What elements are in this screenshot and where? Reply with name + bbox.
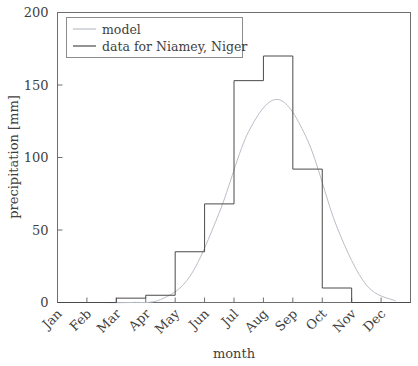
y-axis-tick-labels: 050100150200: [24, 5, 49, 310]
x-tick-label: Apr: [125, 305, 154, 334]
observed-data-series-bars: [58, 56, 411, 303]
y-axis-ticks: [58, 13, 63, 303]
y-tick-label: 0: [40, 295, 48, 310]
x-tick-label: Oct: [303, 305, 331, 333]
x-tick-label: May: [152, 306, 183, 337]
chart-svg: 050100150200 JanFebMarAprMayJunJulAugSep…: [0, 0, 418, 366]
legend-label-data: data for Niamey, Niger: [102, 39, 247, 54]
x-tick-label: Dec: [360, 306, 389, 335]
x-tick-label: Feb: [67, 306, 95, 334]
y-tick-label: 200: [24, 5, 49, 20]
legend-label-model: model: [102, 22, 141, 37]
x-tick-label: Sep: [272, 306, 300, 334]
x-tick-label: Jun: [184, 306, 212, 334]
x-tick-label: Mar: [94, 305, 124, 335]
x-tick-label: Nov: [330, 306, 360, 336]
x-axis-tick-labels: JanFebMarAprMayJunJulAugSepOctNovDec: [38, 305, 389, 336]
precipitation-chart-figure: 050100150200 JanFebMarAprMayJunJulAugSep…: [0, 0, 418, 366]
chart-legend: model data for Niamey, Niger: [67, 18, 248, 58]
x-tick-label: Jul: [217, 306, 242, 331]
y-tick-label: 150: [24, 78, 49, 93]
x-axis-title: month: [213, 346, 256, 361]
y-axis-title: precipitation [mm]: [6, 95, 21, 219]
x-tick-label: Aug: [241, 306, 271, 336]
y-tick-label: 100: [24, 150, 49, 165]
x-axis-ticks: [58, 298, 411, 303]
y-tick-label: 50: [32, 223, 49, 238]
